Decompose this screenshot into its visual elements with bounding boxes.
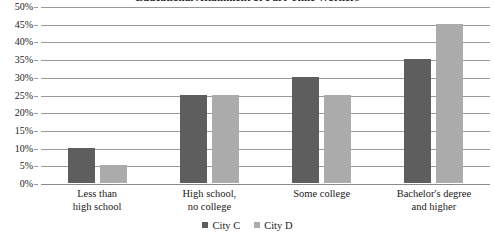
y-axis-tick [34, 113, 38, 114]
x-axis-label: Bachelor's degreeand higher [378, 187, 490, 213]
legend-label: City D [264, 220, 292, 231]
y-axis-label: 15% [15, 126, 33, 136]
y-axis-label: 30% [15, 73, 33, 83]
y-axis-tick [34, 149, 38, 150]
bar [68, 148, 95, 183]
legend-swatch-icon [254, 222, 260, 228]
legend-label: City C [212, 220, 240, 231]
legend-item[interactable]: City C [202, 220, 240, 231]
bar-chart: Educational Attainment of Part-Time Work… [0, 0, 495, 234]
bar-group [404, 7, 463, 184]
y-axis-label: 50% [15, 2, 33, 12]
legend-swatch-icon [202, 222, 208, 228]
bar [100, 165, 127, 183]
y-axis-label: 25% [15, 91, 33, 101]
x-axis-labels: Less thanhigh schoolHigh school,no colle… [41, 187, 490, 217]
y-axis-tick [34, 184, 38, 185]
bar [324, 95, 351, 184]
y-axis: 50%45%40%35%30%25%20%15%10%5%0% [0, 0, 38, 192]
bar [292, 77, 319, 183]
chart-legend: City CCity D [0, 218, 495, 232]
y-axis-label: 45% [15, 20, 33, 30]
bar [404, 59, 431, 183]
y-axis-tick [34, 96, 38, 97]
y-axis-tick [34, 131, 38, 132]
chart-title: Educational Attainment of Part-Time Work… [0, 0, 495, 3]
y-axis-label: 35% [15, 55, 33, 65]
x-axis-label: Some college [266, 187, 378, 200]
y-axis-tick [34, 60, 38, 61]
bar-group [68, 7, 127, 184]
y-axis-tick [34, 78, 38, 79]
x-axis-label: Less thanhigh school [41, 187, 153, 213]
y-axis-label: 5% [20, 161, 33, 171]
y-axis-label: 40% [15, 37, 33, 47]
gridline [41, 184, 490, 185]
y-axis-tick [34, 25, 38, 26]
legend-item[interactable]: City D [254, 220, 292, 231]
y-axis-label: 20% [15, 108, 33, 118]
x-axis-label: High school,no college [153, 187, 265, 213]
bar [212, 95, 239, 184]
y-axis-label: 0% [20, 179, 33, 189]
y-axis-tick [34, 166, 38, 167]
bar [436, 24, 463, 183]
bar [180, 95, 207, 184]
y-axis-tick [34, 7, 38, 8]
y-axis-tick [34, 42, 38, 43]
plot-area [41, 7, 490, 184]
bar-group [292, 7, 351, 184]
bar-groups [41, 7, 490, 184]
y-axis-label: 10% [15, 144, 33, 154]
bar-group [180, 7, 239, 184]
